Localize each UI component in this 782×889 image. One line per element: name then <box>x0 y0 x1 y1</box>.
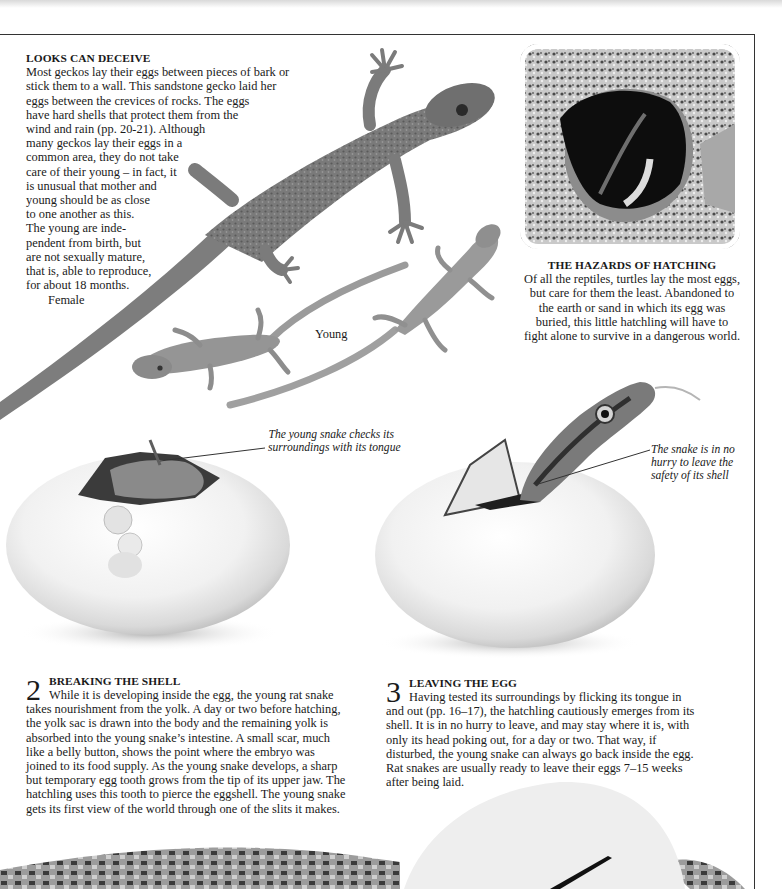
section-heading: LOOKS CAN DECEIVE <box>26 51 289 65</box>
body-line: stick them to a wall. This sandstone gec… <box>26 79 289 93</box>
egg-breaking-image <box>6 440 290 651</box>
body-line: but temporary egg tooth grows from the t… <box>26 773 366 787</box>
callout-line: The young snake checks its <box>268 428 394 441</box>
frame-border-right <box>754 34 755 889</box>
body-line: Having tested its surroundings by flicki… <box>386 690 716 704</box>
body-line: The young are inde- <box>26 221 289 235</box>
body-line: joined to its food supply. As the young … <box>26 759 366 773</box>
callout-line: hurry to leave the <box>651 456 751 469</box>
body-line: for about 18 months. <box>26 278 289 292</box>
body-line: care of their young – in fact, it <box>26 165 289 179</box>
body-line: the yolk sac is drawn into the body and … <box>26 716 366 730</box>
body-line: buried, this little hatchling will have … <box>516 315 748 329</box>
body-line: Of all the reptiles, turtles lay the mos… <box>516 272 748 286</box>
body-line: wind and rain (pp. 20-21). Although <box>26 122 289 136</box>
female-label: Female <box>48 293 84 308</box>
body-line: fight alone to survive in a dangerous wo… <box>516 329 748 343</box>
frame-border-top <box>0 34 755 35</box>
step-breaking-the-shell: 2 BREAKING THE SHELL While it is develop… <box>26 675 366 816</box>
step-number: 2 <box>26 675 41 705</box>
egg-leaving-image <box>375 382 700 659</box>
body-line: While it is developing inside the egg, t… <box>26 688 366 702</box>
young-label: Young <box>315 327 348 342</box>
body-line: hatchling uses this tooth to pierce the … <box>26 787 366 801</box>
body-line: disturbed, the young snake can always go… <box>386 747 716 761</box>
body-line: have hard shells that protect them from … <box>26 108 289 122</box>
gecko-section-text: LOOKS CAN DECEIVE Most geckos lay their … <box>26 51 289 292</box>
callout-tongue: The young snake checks its surroundings … <box>268 428 394 454</box>
body-line: Rat snakes are usually ready to leave th… <box>386 761 716 775</box>
body-line: shell. It is in no hurry to leave, and m… <box>386 718 716 732</box>
body-line: only its head poking out, for a day or t… <box>386 733 716 747</box>
callout-line: surroundings with its tongue <box>268 441 394 454</box>
body-line: that is, able to reproduce, <box>26 264 289 278</box>
body-line: but care for them the least. Abandoned t… <box>516 286 748 300</box>
step-number: 3 <box>386 677 401 707</box>
step-leaving-the-egg: 3 LEAVING THE EGG Having tested its surr… <box>386 677 716 789</box>
callout-line: The snake is in no <box>651 443 751 456</box>
body-line: young should be as close <box>26 193 289 207</box>
step-heading: LEAVING THE EGG <box>386 677 716 690</box>
body-line: the earth or sand in which its egg was <box>516 301 748 315</box>
body-line: pendent from birth, but <box>26 236 289 250</box>
body-line: takes nourishment from the yolk. A day o… <box>26 702 366 716</box>
body-line: and out (pp. 16–17), the hatchling cauti… <box>386 704 716 718</box>
body-line: gets its first view of the world through… <box>26 802 366 816</box>
body-line: is unusual that mother and <box>26 179 289 193</box>
step-heading: BREAKING THE SHELL <box>26 675 366 688</box>
body-line: absorbed into the young snake’s intestin… <box>26 731 366 745</box>
body-line: after being laid. <box>386 775 716 789</box>
section-heading: THE HAZARDS OF HATCHING <box>516 258 748 272</box>
callout-shell: The snake is in no hurry to leave the sa… <box>651 443 751 482</box>
body-line: many geckos lay their eggs in a <box>26 136 289 150</box>
body-line: like a belly button, shows the point whe… <box>26 745 366 759</box>
callout-line: safety of its shell <box>651 469 751 482</box>
body-line: to one another as this. <box>26 207 289 221</box>
turtle-hatchling-image <box>520 44 740 249</box>
body-line: are not sexually mature, <box>26 250 289 264</box>
body-line: Most geckos lay their eggs between piece… <box>26 65 289 79</box>
body-line: eggs between the crevices of rocks. The … <box>26 94 289 108</box>
turtle-section-text: THE HAZARDS OF HATCHING Of all the repti… <box>516 258 748 343</box>
body-line: common area, they do not take <box>26 150 289 164</box>
